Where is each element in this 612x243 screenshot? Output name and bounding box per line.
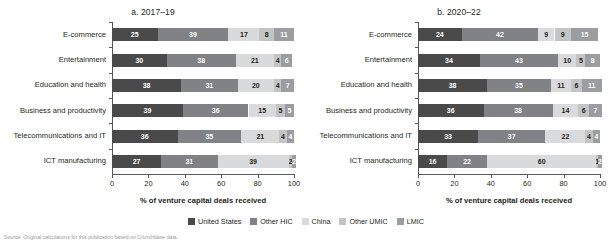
legend-item-other-hic[interactable]: Other HIC (250, 217, 292, 226)
bar-value-label: 37 (508, 133, 516, 140)
bar-value-label: 4 (281, 133, 285, 140)
legend-item-united-states[interactable]: United States (188, 217, 241, 226)
x-tick-60 (527, 174, 528, 178)
bar-value-label: 42 (496, 31, 504, 38)
bar-value-label: 38 (143, 82, 151, 89)
bar-segment: 4 (593, 130, 600, 143)
bar-value-label: 6 (285, 57, 289, 64)
bar-segment: 9 (538, 28, 554, 41)
bar-value-label: 8 (265, 31, 269, 38)
bar-value-label: 21 (256, 133, 264, 140)
bar-segment: 10 (558, 54, 576, 67)
bar-segment: 4 (274, 54, 281, 67)
bar-segment: 14 (553, 104, 578, 117)
y-tick-4 (109, 123, 113, 124)
y-tick-1 (109, 47, 113, 48)
bar-value-label: 60 (538, 158, 546, 165)
bar-value-label: 14 (562, 107, 570, 114)
bar-segment: 11 (582, 79, 602, 92)
bar-value-label: 6 (582, 107, 586, 114)
bar-value-label: 22 (463, 158, 471, 165)
bar-segment: 7 (589, 104, 602, 117)
y-tick-5 (415, 149, 419, 150)
legend-item-other-umic[interactable]: Other UMIC (339, 217, 387, 226)
legend-label: United States (198, 217, 241, 226)
legend-label: China (312, 217, 331, 226)
bar-segment: 6 (578, 104, 589, 117)
bar-row: 36381467 (418, 104, 600, 117)
bar-value-label: 11 (588, 82, 595, 89)
bar-value-label: 38 (514, 107, 522, 114)
bar-value-label: 10 (563, 57, 571, 64)
bar-value-label: 5 (287, 107, 291, 114)
bar-row: 27313922 (112, 155, 294, 168)
bar-segment: 15 (571, 28, 598, 41)
panel-b-plot-area: 0204060801002442991534431058383511611363… (418, 22, 600, 174)
legend-label: LMIC (407, 217, 424, 226)
x-tick-40 (491, 174, 492, 178)
bar-row: 24429915 (418, 28, 600, 41)
bar-segment: 31 (181, 79, 237, 92)
x-tick-60 (221, 174, 222, 178)
bar-value-label: 7 (286, 82, 290, 89)
bar-value-label: 36 (212, 107, 220, 114)
bar-value-label: 35 (515, 82, 523, 89)
y-tick-3 (109, 98, 113, 99)
bar-value-label: 9 (544, 31, 548, 38)
bar-value-label: 36 (141, 133, 149, 140)
bar-segment: 27 (112, 155, 161, 168)
bar-segment: 35 (487, 79, 551, 92)
bar-value-label: 4 (587, 133, 591, 140)
bar-segment: 9 (555, 28, 571, 41)
bar-value-label: 38 (449, 82, 457, 89)
y-tick-0 (109, 22, 113, 23)
bar-value-label: 11 (557, 82, 564, 89)
bar-segment: 4 (585, 130, 592, 143)
bar-segment: 4 (274, 79, 281, 92)
x-tick-0 (112, 174, 113, 178)
bar-row: 383511611 (418, 79, 600, 92)
x-tick-100 (294, 174, 295, 178)
y-tick-1 (415, 47, 419, 48)
bar-value-label: 33 (444, 133, 452, 140)
legend-item-lmic[interactable]: LMIC (397, 217, 424, 226)
x-tick-40 (185, 174, 186, 178)
bar-segment: 21 (236, 54, 274, 67)
bar-value-label: 4 (276, 57, 280, 64)
bar-segment: 24 (418, 28, 462, 41)
bar-value-label: 39 (189, 31, 197, 38)
bar-value-label: 7 (593, 107, 597, 114)
bar-value-label: 25 (131, 31, 139, 38)
panel-a-x-axis-title: % of venture capital deals received (112, 196, 294, 205)
panel-a-y-axis (112, 22, 113, 174)
x-tick-label-0: 0 (110, 179, 114, 188)
panel-a-title: a. 2017–19 (0, 7, 306, 17)
y-tick-2 (109, 73, 113, 74)
bar-segment: 37 (478, 130, 545, 143)
legend-swatch-icon (188, 218, 195, 225)
bar-segment: 39 (112, 104, 183, 117)
bar-row: 39361555 (112, 104, 294, 117)
x-tick-label-60: 60 (217, 179, 225, 188)
x-tick-0 (418, 174, 419, 178)
chart-legend: United StatesOther HICChinaOther UMICLMI… (0, 214, 612, 228)
bar-value-label: 22 (562, 133, 570, 140)
bar-row: 38312047 (112, 79, 294, 92)
bar-segment: 36 (183, 104, 249, 117)
bar-segment: 2 (598, 155, 602, 168)
x-tick-100 (600, 174, 601, 178)
category-label-business-and-productivity: Business and productivity (306, 106, 412, 115)
legend-item-china[interactable]: China (302, 217, 331, 226)
bar-value-label: 16 (429, 158, 437, 165)
bar-value-label: 4 (288, 133, 292, 140)
bar-segment: 4 (287, 130, 294, 143)
bar-segment: 36 (418, 104, 484, 117)
bar-segment: 16 (418, 155, 447, 168)
bar-value-label: 9 (561, 31, 565, 38)
bar-segment: 22 (545, 130, 585, 143)
x-tick-20 (148, 174, 149, 178)
bar-value-label: 11 (280, 31, 287, 38)
bar-segment: 36 (112, 130, 178, 143)
category-label-telecommunications-and-it: Telecommunications and IT (306, 131, 412, 140)
bar-value-label: 30 (135, 57, 143, 64)
